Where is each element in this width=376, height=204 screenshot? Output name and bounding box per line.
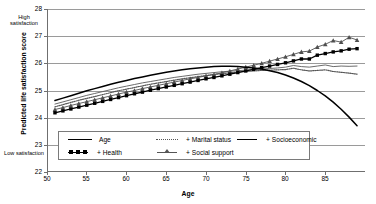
legend-label-health: Health	[103, 148, 122, 157]
legend-item-health[interactable]: + Health	[65, 147, 122, 158]
legend-label-socioeconomic: Socioeconomic	[272, 135, 317, 144]
legend-key-dotted-icon	[154, 135, 184, 144]
legend-plus-socioeconomic: +	[266, 136, 270, 143]
legend-key-square-marker-icon	[65, 148, 95, 157]
legend-plus-marital-status: +	[186, 136, 190, 143]
legend-plus-health: +	[97, 149, 101, 156]
legend-plus-social-support: +	[186, 149, 190, 156]
series-lines	[0, 0, 376, 204]
legend-key-solid-thick-icon	[65, 135, 95, 144]
legend-key-solid-thin-icon	[234, 135, 264, 144]
legend-item-socioeconomic[interactable]: + Socioeconomic	[234, 134, 317, 145]
legend-key-triangle-marker-icon	[154, 148, 184, 157]
legend-label-marital-status: Marital status	[192, 135, 231, 144]
chart-container: 28 27 26 25 24 23 22 50 55 60 65 70 75 8…	[0, 0, 376, 204]
legend-item-social-support[interactable]: + Social support	[154, 147, 234, 158]
chart-legend: Age + Marital status + Socioeconomic + H…	[58, 131, 310, 160]
legend-label-social-support: Social support	[192, 148, 234, 157]
legend-label-age: Age	[99, 135, 111, 144]
legend-item-age[interactable]: Age	[65, 134, 111, 145]
legend-item-marital-status[interactable]: + Marital status	[154, 134, 231, 145]
